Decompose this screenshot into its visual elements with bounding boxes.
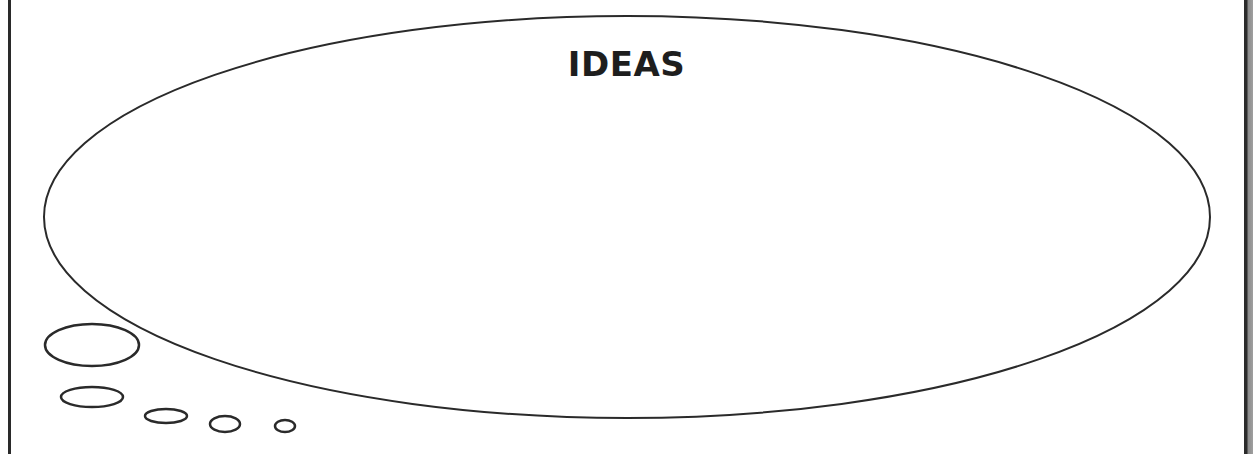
- trail-bubble: [210, 416, 240, 432]
- trail-bubble: [145, 409, 187, 423]
- diagram-title: IDEAS: [0, 44, 1253, 84]
- trail-bubble: [61, 387, 123, 407]
- thought-trail: [45, 324, 295, 432]
- trail-bubble: [275, 420, 295, 432]
- trail-bubble: [45, 324, 139, 366]
